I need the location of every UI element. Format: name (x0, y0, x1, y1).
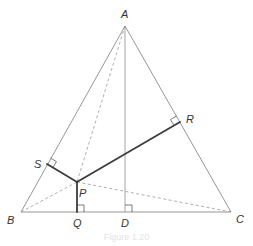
triangle-abc (21, 26, 231, 212)
dashed-lines (21, 26, 231, 212)
label-c: C (236, 213, 244, 225)
figure-caption: Figure 1.20 (0, 232, 253, 242)
side-ab (21, 26, 125, 212)
label-d: D (121, 217, 129, 229)
perpendicular-pr (77, 122, 180, 182)
point-labels: A B C D P Q R S (7, 8, 244, 229)
perpendicular-ps (47, 164, 77, 182)
right-angle-mark-d (125, 205, 132, 212)
geometry-diagram: A B C D P Q R S Figure 1.20 (0, 0, 253, 246)
label-r: R (186, 113, 194, 125)
dashed-cp (77, 182, 231, 212)
right-angle-mark-q (77, 205, 84, 212)
label-p: P (79, 187, 87, 199)
label-a: A (120, 8, 128, 20)
label-b: B (7, 214, 14, 226)
label-q: Q (73, 217, 82, 229)
side-ca (125, 26, 231, 212)
right-angle-marks (50, 116, 176, 212)
label-s: S (34, 158, 42, 170)
